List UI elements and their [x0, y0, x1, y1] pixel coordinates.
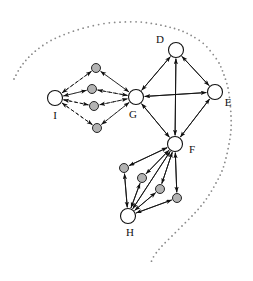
node-label-I: I [53, 109, 57, 121]
node-label-G: G [129, 108, 137, 120]
major-node-F[interactable] [168, 137, 183, 152]
minor-node-h1[interactable] [120, 164, 129, 173]
major-node-E[interactable] [208, 85, 223, 100]
minor-node-h3[interactable] [156, 185, 165, 194]
minor-node-h4[interactable] [173, 194, 182, 203]
edge-h4-F [175, 153, 176, 193]
node-label-D: D [156, 33, 164, 45]
edge-F-D [175, 59, 176, 136]
major-node-D[interactable] [169, 43, 184, 58]
edge-F-G [142, 104, 170, 138]
node-label-F: F [189, 143, 195, 155]
dotted-region-boundary [13, 21, 232, 262]
edge-E-D [182, 56, 209, 85]
edge-D-G [142, 57, 171, 91]
major-node-G[interactable] [129, 90, 144, 105]
edge-F-E [180, 99, 209, 137]
minor-node-h2[interactable] [138, 174, 147, 183]
minor-node-i1[interactable] [92, 64, 101, 73]
minor-nodes-group [88, 64, 182, 203]
minor-node-i4[interactable] [93, 124, 102, 133]
node-label-E: E [225, 96, 232, 108]
edge-H-h4 [136, 200, 171, 213]
major-node-H[interactable] [121, 209, 136, 224]
major-node-I[interactable] [48, 91, 63, 106]
minor-node-i2[interactable] [88, 85, 97, 94]
solid-edges-group [124, 56, 209, 213]
graph-svg: DEFGHI [0, 0, 253, 281]
diagram-canvas: DEFGHI [0, 0, 253, 281]
edge-h1-F [129, 148, 167, 166]
edge-H-h1 [124, 174, 127, 208]
node-label-H: H [126, 226, 134, 238]
edge-i3-I [64, 100, 89, 105]
dashed-edges-group [62, 71, 129, 124]
node-labels-group: DEFGHI [53, 33, 231, 238]
minor-node-i3[interactable] [90, 102, 99, 111]
